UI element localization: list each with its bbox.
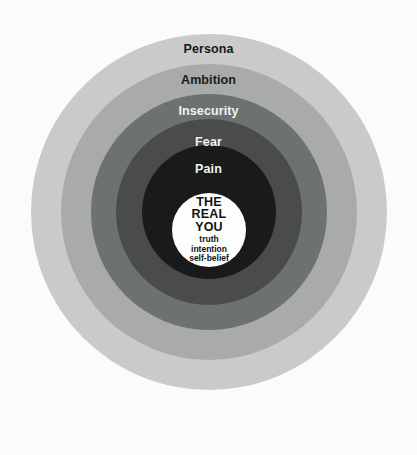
ring-label-persona: Persona [0, 42, 417, 56]
core-subtext: truth intention self-belief [189, 235, 229, 264]
core-subtext-line-3: self-belief [189, 254, 229, 264]
core-heading: THE REAL YOU [192, 196, 227, 234]
ring-label-ambition: Ambition [0, 73, 417, 87]
ring-label-pain: Pain [0, 162, 417, 176]
ring-label-insecurity: Insecurity [0, 104, 417, 118]
core-circle-real-you[interactable]: THE REAL YOU truth intention self-belief [172, 193, 246, 267]
core-heading-line-3: YOU [192, 221, 227, 234]
core-heading-line-1: THE [192, 196, 227, 209]
concentric-rings-diagram: THE REAL YOU truth intention self-belief… [0, 0, 417, 455]
ring-label-fear: Fear [0, 135, 417, 149]
